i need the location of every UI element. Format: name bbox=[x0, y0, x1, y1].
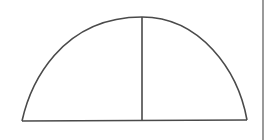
semi-ellipse-diagram bbox=[0, 0, 267, 140]
arc-curve bbox=[22, 17, 247, 121]
right-edge-bar bbox=[262, 0, 264, 140]
base-line bbox=[22, 120, 247, 121]
